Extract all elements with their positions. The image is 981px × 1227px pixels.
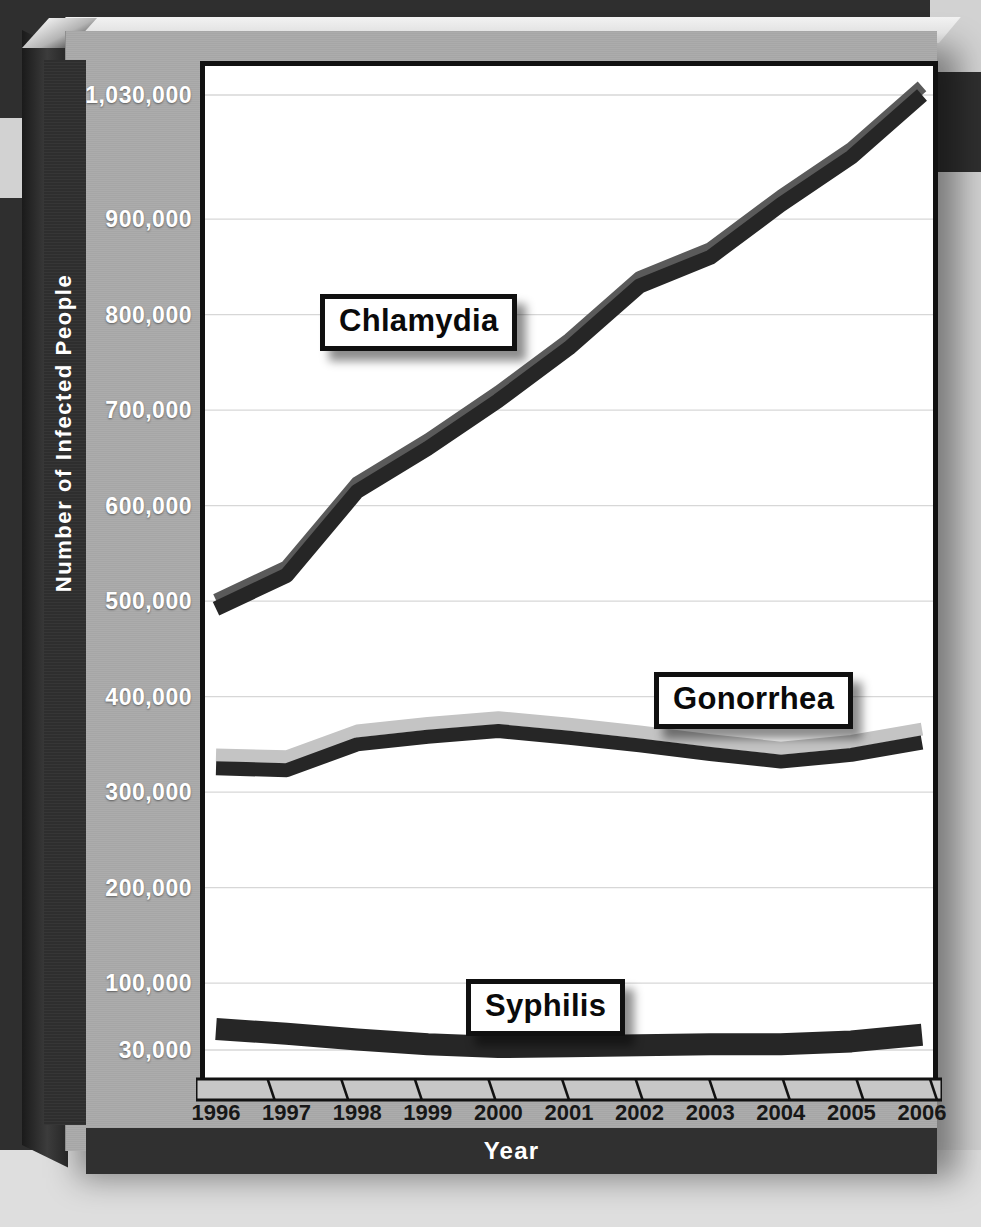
y-axis-tick-6: 400,000 <box>32 683 192 710</box>
y-axis-tick-10: 30,000 <box>32 1037 192 1064</box>
x-axis-title: Year <box>86 1137 937 1165</box>
x-axis-floor <box>196 1076 942 1102</box>
x-axis-tick-2006: 2006 <box>877 1100 967 1126</box>
series-label-chlamydia: Chlamydia <box>320 294 517 351</box>
y-axis-tick-labels: 1,030,000900,000800,000700,000600,000500… <box>20 61 192 1084</box>
y-axis-tick-4: 600,000 <box>32 492 192 519</box>
y-axis-tick-8: 200,000 <box>32 874 192 901</box>
series-label-gonorrhea: Gonorrhea <box>654 672 853 729</box>
x-axis-title-strip: Year <box>86 1128 937 1174</box>
plot-inner <box>205 66 933 1079</box>
chart-page: Number of Infected People 1,030,000900,0… <box>0 0 981 1227</box>
y-axis-tick-1: 900,000 <box>32 206 192 233</box>
y-axis-tick-3: 700,000 <box>32 397 192 424</box>
y-axis-tick-2: 800,000 <box>32 301 192 328</box>
plot-area <box>200 61 938 1084</box>
chart-svg <box>205 66 933 1079</box>
y-axis-tick-5: 500,000 <box>32 588 192 615</box>
y-axis-tick-7: 300,000 <box>32 779 192 806</box>
y-axis-tick-0: 1,030,000 <box>32 82 192 109</box>
series-label-syphilis: Syphilis <box>466 979 625 1036</box>
y-axis-tick-9: 100,000 <box>32 970 192 997</box>
